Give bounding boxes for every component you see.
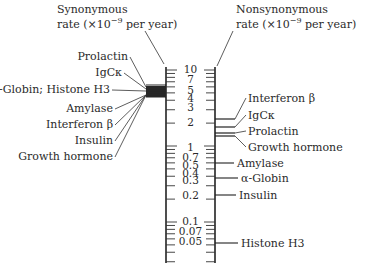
scale-label: 3 — [187, 101, 194, 113]
synonymous-gene-label: α-Globin; Histone H3 — [0, 83, 110, 96]
nonsynonymous-axis-title: Nonsynonymous rate (×10−9 per year) — [217, 3, 356, 66]
synonymous-leader — [115, 95, 146, 125]
synonymous-title-line1: Synonymous — [57, 3, 128, 16]
scale-labels: 107543210.70.50.40.30.20.10.070.05 — [179, 63, 202, 247]
synonymous-leader — [112, 90, 146, 91]
nonsynonymous-gene-label: Growth hormone — [248, 141, 343, 154]
scale-label: 0.2 — [182, 189, 199, 201]
synonymous-gene-label: Interferon β — [46, 118, 113, 131]
synonymous-gene-label: Growth hormone — [18, 150, 113, 163]
nonsynonymous-gene-label: Prolactin — [248, 125, 299, 138]
synonymous-gene-label: Amylase — [65, 102, 113, 115]
nonsynonymous-gene-label: α-Globin — [241, 172, 289, 185]
nonsynonymous-leader — [235, 115, 246, 127]
nonsynonymous-gene-markers: Interferon βIgCκProlactinGrowth hormoneA… — [215, 92, 343, 250]
nonsynonymous-gene-label: Amylase — [236, 157, 284, 170]
nonsynonymous-leader — [235, 136, 246, 147]
nonsynonymous-gene-label: Histone H3 — [241, 237, 304, 250]
nonsynonymous-title-leader — [217, 31, 233, 66]
synonymous-title-leader — [145, 31, 164, 64]
nonsynonymous-gene-label: Interferon β — [248, 92, 315, 105]
scale-label: 2 — [187, 116, 194, 128]
synonymous-gene-label: Insulin — [75, 134, 113, 147]
synonymous-leader — [115, 95, 146, 157]
synonymous-axis-ticks — [166, 70, 177, 262]
nonsynonymous-axis-ticks — [204, 70, 215, 262]
nonsynonymous-title-line1: Nonsynonymous — [236, 3, 328, 16]
nonsynonymous-leader — [235, 98, 246, 119]
scale-label: 0.05 — [179, 235, 202, 247]
scale-label: 0.3 — [182, 174, 199, 186]
nonsynonymous-leader — [235, 131, 246, 133]
synonymous-gene-label: IgCκ — [95, 66, 122, 79]
nonsynonymous-title-line2: rate (×10−9 per year) — [236, 16, 356, 31]
substitution-rate-diagram: Synonymous rate (×10−9 per year) Nonsyno… — [0, 0, 365, 272]
nonsynonymous-gene-label: Insulin — [239, 189, 277, 202]
synonymous-gene-label: Prolactin — [77, 50, 128, 63]
diagram-canvas: Synonymous rate (×10−9 per year) Nonsyno… — [0, 0, 365, 272]
nonsynonymous-gene-label: IgCκ — [248, 109, 275, 122]
synonymous-gene-markers: ProlactinIgCκα-Globin; Histone H3Amylase… — [0, 50, 166, 163]
synonymous-leader — [130, 57, 146, 87]
synonymous-title-line2: rate (×10−9 per year) — [57, 16, 177, 31]
